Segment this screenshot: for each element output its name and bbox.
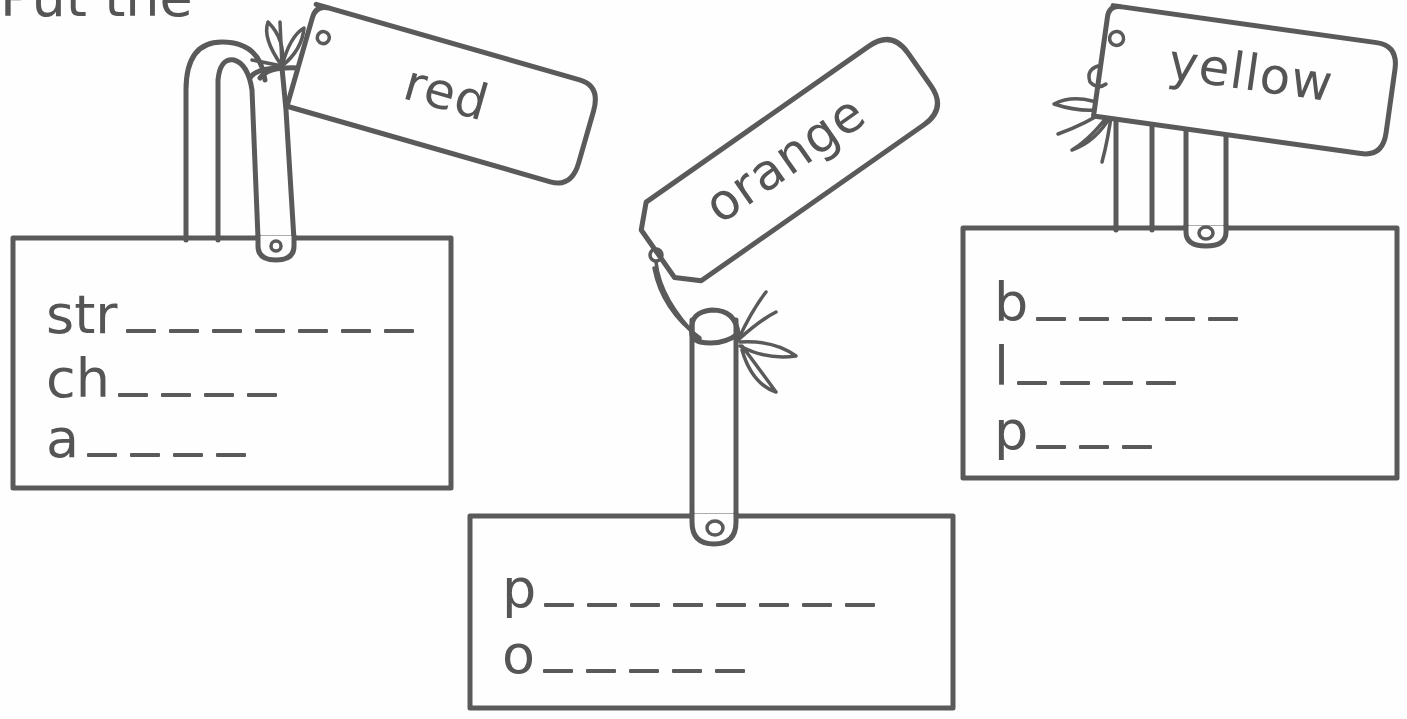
- letter-blanks[interactable]: [544, 603, 875, 607]
- word-prefix: a: [46, 412, 79, 466]
- word-prefix: ch: [46, 352, 110, 406]
- letter-blanks[interactable]: [118, 393, 277, 397]
- word-prefix: p: [502, 562, 536, 616]
- word-row-l: l: [994, 340, 1176, 394]
- letter-blanks[interactable]: [1017, 381, 1176, 385]
- letter-blanks[interactable]: [543, 669, 745, 673]
- word-row-str: str: [46, 288, 414, 342]
- word-row-p: p: [502, 562, 875, 616]
- letter-blanks[interactable]: [87, 453, 246, 457]
- word-prefix: p: [994, 404, 1028, 458]
- word-row-o: o: [502, 628, 745, 682]
- word-row-a: a: [46, 412, 246, 466]
- letter-blanks[interactable]: [126, 329, 414, 333]
- word-prefix: str: [46, 288, 118, 342]
- word-prefix: b: [994, 276, 1028, 330]
- word-prefix: o: [502, 628, 535, 682]
- word-row-ch: ch: [46, 352, 277, 406]
- word-row-b: b: [994, 276, 1238, 330]
- word-prefix: l: [994, 340, 1009, 394]
- letter-blanks[interactable]: [1036, 445, 1152, 449]
- word-row-p2: p: [994, 404, 1152, 458]
- letter-blanks[interactable]: [1036, 317, 1238, 321]
